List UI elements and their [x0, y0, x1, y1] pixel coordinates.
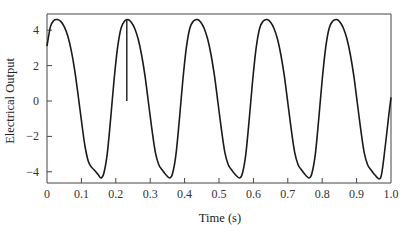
line-chart: 00.10.20.30.40.50.60.70.80.91.0 420−2−4 …	[0, 0, 407, 235]
x-tick-label: 0.2	[108, 187, 123, 201]
y-tick-label: −4	[26, 165, 39, 179]
x-tick-label: 0.8	[315, 187, 330, 201]
x-tick-label: 0.9	[349, 187, 364, 201]
y-tick-label: 4	[33, 23, 39, 37]
data-series	[47, 19, 391, 178]
y-axis-ticks: 420−2−4	[26, 23, 52, 179]
y-tick-label: −2	[26, 129, 39, 143]
x-tick-label: 0.4	[177, 187, 192, 201]
x-tick-label: 0.7	[280, 187, 295, 201]
series-line	[47, 19, 391, 178]
x-tick-label: 0.5	[212, 187, 227, 201]
x-axis-ticks: 00.10.20.30.40.50.60.70.80.91.0	[44, 178, 399, 201]
x-axis-title: Time (s)	[199, 211, 241, 225]
y-tick-label: 0	[33, 94, 39, 108]
x-tick-label: 0.6	[246, 187, 261, 201]
y-tick-label: 2	[33, 59, 39, 73]
x-tick-label: 1.0	[384, 187, 399, 201]
x-tick-label: 0.1	[74, 187, 89, 201]
plot-frame	[47, 14, 391, 183]
y-axis-title: Electrical Output	[3, 58, 17, 144]
x-tick-label: 0	[44, 187, 50, 201]
x-tick-label: 0.3	[143, 187, 158, 201]
